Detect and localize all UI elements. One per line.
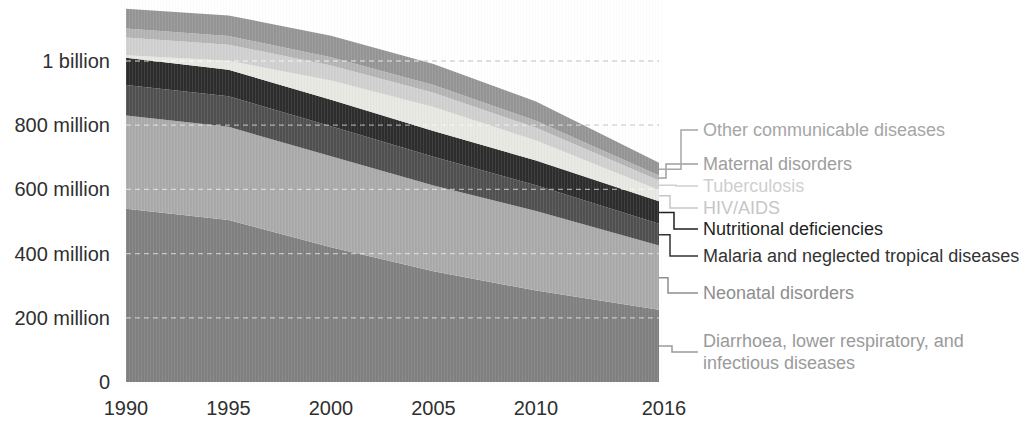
legend-label-neonatal-disorders: Neonatal disorders (703, 282, 854, 304)
legend-label-malaria-ntd: Malaria and neglected tropical diseases (703, 245, 1019, 267)
legend-connector-neonatal-disorders (659, 278, 698, 293)
y-tick-label-400: 400 million (0, 242, 110, 266)
y-tick-label-1000: 1 billion (0, 49, 110, 73)
legend-connector-nutritional-deficiencies (659, 213, 698, 230)
x-tick-label-2010: 2010 (491, 396, 581, 420)
x-tick-label-1990: 1990 (81, 396, 171, 420)
x-tick-label-2005: 2005 (389, 396, 479, 420)
legend-label-nutritional-deficiencies: Nutritional deficiencies (703, 218, 883, 240)
legend-label-line: HIV/AIDS (703, 197, 780, 219)
legend-label-line: Other communicable diseases (703, 119, 945, 141)
legend-label-line: infectious diseases (703, 352, 964, 374)
legend-connector-hiv-aids (659, 196, 698, 208)
legend-connector-diarrhoea-lower-respiratory-infectious (659, 346, 698, 352)
legend-label-line: Nutritional deficiencies (703, 218, 883, 240)
x-tick-label-2000: 2000 (286, 396, 376, 420)
legend-connector-malaria-ntd (659, 235, 698, 256)
legend-connector-tuberculosis (659, 185, 698, 186)
x-tick-label-2016: 2016 (619, 396, 709, 420)
y-tick-label-800: 800 million (0, 113, 110, 137)
legend-label-line: Maternal disorders (703, 153, 852, 175)
legend-label-other-communicable: Other communicable diseases (703, 119, 945, 141)
legend-label-line: Malaria and neglected tropical diseases (703, 245, 1019, 267)
legend-label-line: Tuberculosis (703, 175, 804, 197)
legend-connector-maternal-disorders (659, 164, 698, 178)
x-tick-label-1995: 1995 (184, 396, 274, 420)
legend-label-line: Diarrhoea, lower respiratory, and (703, 330, 964, 352)
legend-label-tuberculosis: Tuberculosis (703, 175, 804, 197)
legend-label-hiv-aids: HIV/AIDS (703, 197, 780, 219)
y-tick-label-200: 200 million (0, 306, 110, 330)
stacked-area-figure: 0200 million400 million600 million800 mi… (0, 0, 1036, 439)
legend-label-maternal-disorders: Maternal disorders (703, 153, 852, 175)
legend-label-diarrhoea-lower-respiratory-infectious: Diarrhoea, lower respiratory, andinfecti… (703, 330, 964, 374)
legend-label-line: Neonatal disorders (703, 282, 854, 304)
y-tick-label-600: 600 million (0, 177, 110, 201)
y-tick-label-0: 0 (0, 370, 110, 394)
